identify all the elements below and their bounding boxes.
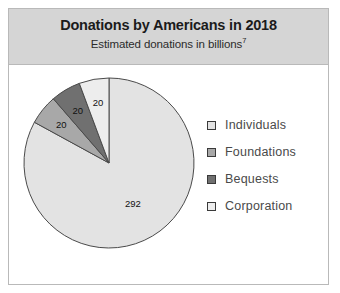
chart-figure: Donations by Americans in 2018 Estimated… bbox=[8, 8, 329, 285]
pie-chart-svg: 292202020 bbox=[21, 75, 201, 255]
legend-label-foundations: Foundations bbox=[225, 145, 296, 159]
pie-slice-value-bequests: 20 bbox=[73, 105, 84, 116]
legend-item-foundations[interactable]: Foundations bbox=[207, 140, 327, 164]
chart-subtitle-footnote-marker: 7 bbox=[242, 36, 246, 45]
legend-label-individuals: Individuals bbox=[225, 118, 286, 132]
chart-plot-area: 292202020 Individuals Foundations Beques… bbox=[9, 65, 328, 284]
legend-swatch-individuals bbox=[207, 121, 216, 130]
pie-slice-value-individuals: 292 bbox=[125, 198, 141, 209]
legend-swatch-bequests bbox=[207, 175, 216, 184]
chart-subtitle: Estimated donations in billions7 bbox=[9, 33, 328, 50]
legend-item-individuals[interactable]: Individuals bbox=[207, 113, 327, 137]
chart-legend: Individuals Foundations Bequests Corpora… bbox=[207, 113, 327, 221]
legend-item-bequests[interactable]: Bequests bbox=[207, 167, 327, 191]
legend-label-corporation: Corporation bbox=[225, 199, 293, 213]
pie-slice-value-foundations: 20 bbox=[56, 119, 67, 130]
pie-slice-value-corporation: 20 bbox=[93, 97, 104, 108]
page-title: Donations by Americans in 2018 bbox=[9, 9, 328, 33]
chart-subtitle-text: Estimated donations in billions bbox=[91, 38, 243, 50]
legend-swatch-corporation bbox=[207, 202, 216, 211]
chart-header: Donations by Americans in 2018 Estimated… bbox=[9, 9, 328, 65]
pie-slice-group bbox=[24, 78, 194, 248]
legend-swatch-foundations bbox=[207, 148, 216, 157]
legend-label-bequests: Bequests bbox=[225, 172, 279, 186]
legend-item-corporation[interactable]: Corporation bbox=[207, 194, 327, 218]
pie-chart: 292202020 bbox=[21, 75, 201, 255]
